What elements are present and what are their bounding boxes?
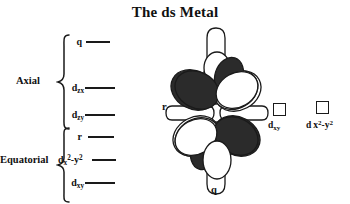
level-label-dx2y2-eq: dx2-y2: [58, 155, 83, 167]
level-line-dzy: [85, 114, 115, 116]
level-label-text: q: [76, 36, 82, 47]
empty-orbital-dx2y2: d x2-y2: [306, 101, 348, 139]
level-label-sub: zx: [77, 87, 84, 95]
level-line-q-axial: [86, 41, 110, 43]
dxy-empty-box[interactable]: [273, 103, 286, 116]
box-label-sub: xy: [273, 124, 280, 132]
group-label-axial: Axial: [16, 76, 40, 87]
box-label-sup-2b: 2: [329, 119, 333, 127]
level-label-sup-2b: 2: [79, 154, 83, 162]
energy-level-diagram: Axial Equatorial q dzx dzy r dx2-y2 dxy: [0, 26, 175, 204]
level-label-sub: xy: [77, 182, 84, 190]
level-label-sup-2a: 2: [67, 154, 71, 162]
empty-orbital-dxy: dxy: [268, 103, 298, 139]
level-label-dzy: dzy: [56, 110, 84, 122]
level-line-r-eq: [88, 136, 114, 138]
dxy-box-label: dxy: [268, 121, 280, 132]
page-title: The ds Metal: [0, 4, 350, 21]
figure-canvas: The ds Metal Axial Equatorial q dzx: [0, 0, 350, 204]
orbital-diagram: q r: [160, 24, 280, 204]
group-label-equatorial: Equatorial: [0, 155, 48, 166]
orbital-tag-r: r: [162, 102, 167, 113]
lobe-bottom-center-white: [203, 141, 231, 179]
level-label-q-axial: q: [60, 37, 82, 47]
level-label-text: r: [78, 131, 82, 142]
level-label-dxy-eq: dxy: [56, 178, 84, 190]
orbital-svg: [160, 24, 280, 204]
dx2y2-empty-box[interactable]: [316, 101, 329, 114]
level-line-dxy-eq: [85, 182, 115, 184]
orbital-tag-q: q: [211, 185, 217, 196]
level-label-r-eq: r: [62, 132, 82, 142]
box-label-sup-2a: 2: [318, 119, 322, 127]
level-line-dzx: [85, 87, 115, 89]
dx2y2-box-label: d x2-y2: [306, 120, 333, 130]
level-label-sub: zy: [77, 114, 84, 122]
level-label-dzx: dzx: [56, 83, 84, 95]
level-line-dx2y2-eq: [92, 159, 116, 161]
box-label-text: d: [306, 120, 311, 130]
